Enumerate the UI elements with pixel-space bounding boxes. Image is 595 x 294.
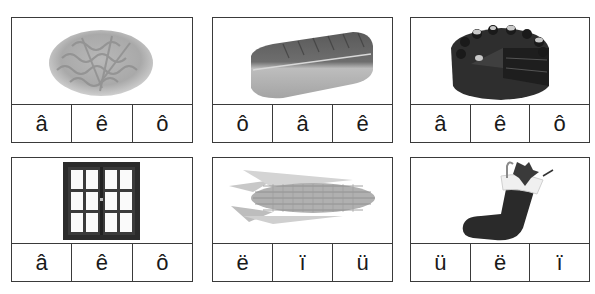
letter-option[interactable]: â bbox=[12, 244, 71, 281]
letter-option[interactable]: ô bbox=[132, 244, 192, 281]
card-cake: â ê ô bbox=[410, 17, 590, 143]
letter-choices: ü ë ï bbox=[411, 243, 589, 281]
letter-option[interactable]: ô bbox=[132, 105, 192, 142]
letter-option[interactable]: ê bbox=[332, 105, 392, 142]
corn-image bbox=[213, 158, 392, 245]
letter-option[interactable]: ô bbox=[213, 105, 272, 142]
letter-choices: â ê ô bbox=[12, 104, 192, 142]
letter-option[interactable]: ü bbox=[411, 244, 470, 281]
letter-option[interactable]: ô bbox=[529, 105, 589, 142]
letter-choices: ô â ê bbox=[213, 104, 392, 142]
cake-image bbox=[411, 18, 589, 105]
letter-choices: â ê ô bbox=[411, 104, 589, 142]
letter-option[interactable]: â bbox=[12, 105, 71, 142]
letter-option[interactable]: ë bbox=[213, 244, 272, 281]
letter-option[interactable]: ü bbox=[332, 244, 392, 281]
stocking-image bbox=[411, 158, 589, 245]
letter-option[interactable]: ê bbox=[71, 244, 131, 281]
letter-choices: ë ï ü bbox=[213, 243, 392, 281]
letter-option[interactable]: â bbox=[272, 105, 332, 142]
letter-option[interactable]: ê bbox=[71, 105, 131, 142]
letter-option[interactable]: ï bbox=[272, 244, 332, 281]
letter-choices: â ê ô bbox=[12, 243, 192, 281]
card-roast: ô â ê bbox=[212, 17, 393, 143]
letter-option[interactable]: ë bbox=[470, 244, 530, 281]
card-window: â ê ô bbox=[11, 157, 193, 282]
pasta-image bbox=[12, 18, 192, 105]
letter-option[interactable]: ï bbox=[529, 244, 589, 281]
card-stocking: ü ë ï bbox=[410, 157, 590, 282]
card-corn: ë ï ü bbox=[212, 157, 393, 282]
letter-option[interactable]: ê bbox=[470, 105, 530, 142]
window-image bbox=[12, 158, 192, 245]
letter-option[interactable]: â bbox=[411, 105, 470, 142]
roast-image bbox=[213, 18, 392, 105]
card-pasta: â ê ô bbox=[11, 17, 193, 143]
